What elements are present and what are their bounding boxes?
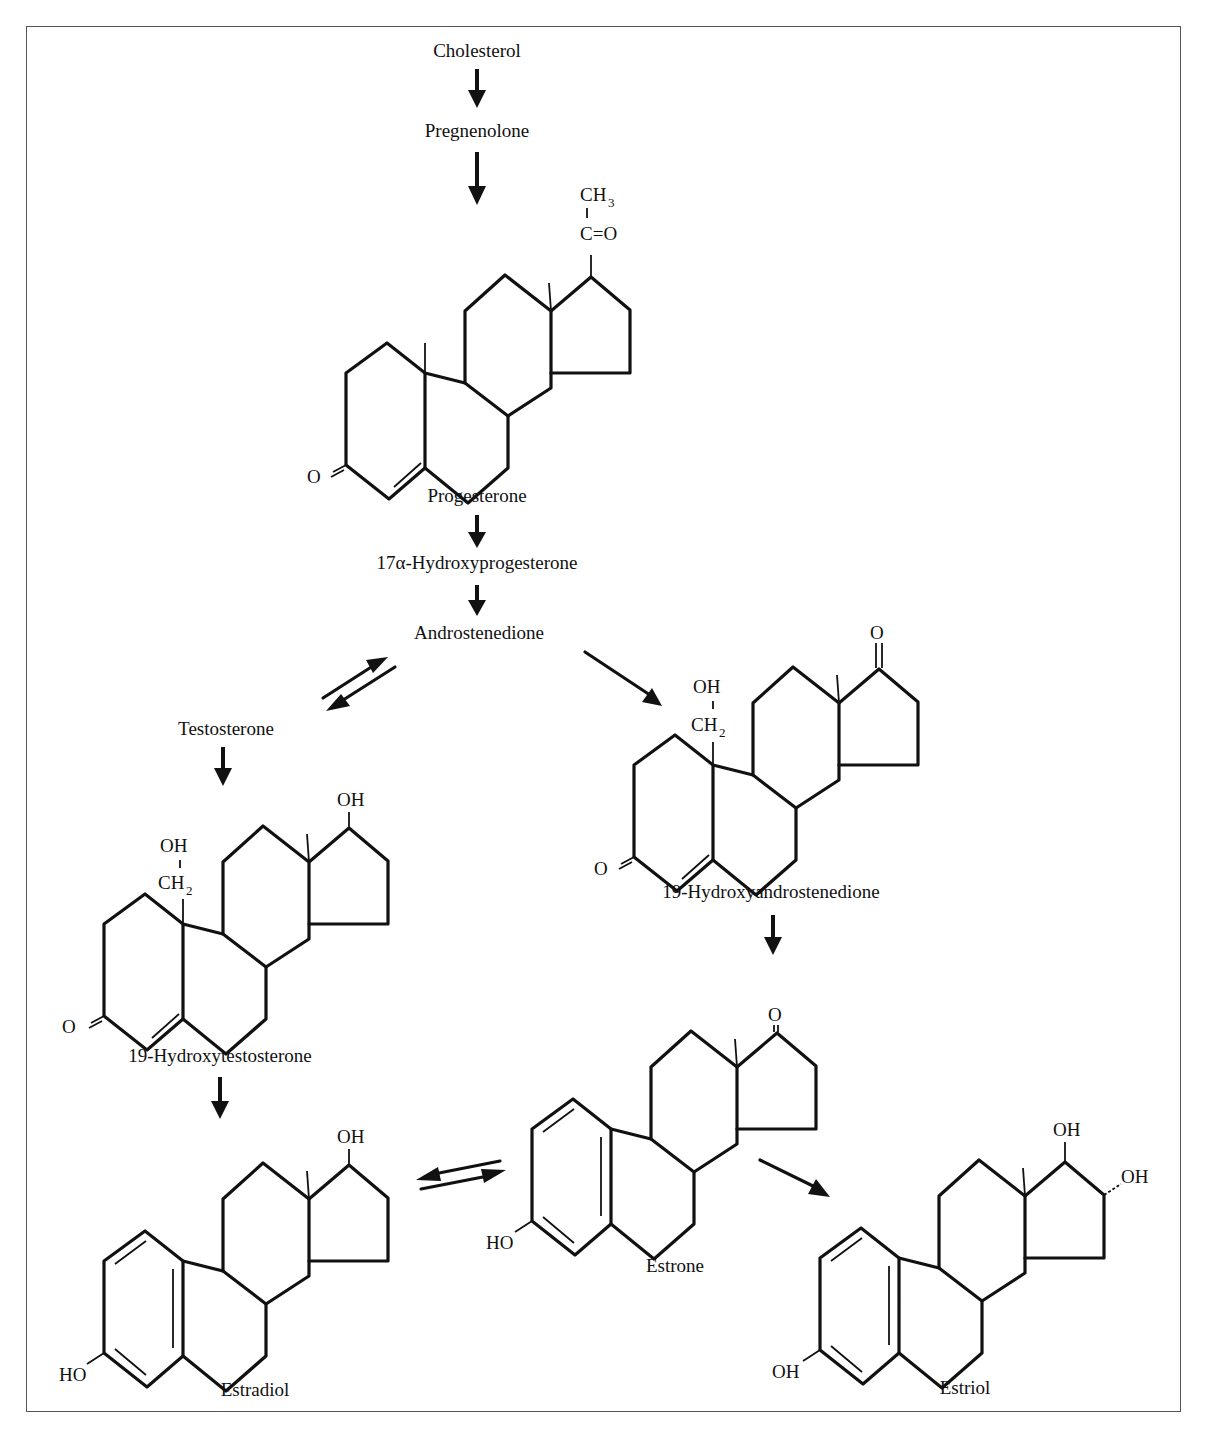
label-17a-hydroxyprogesterone: 17α-Hydroxyprogesterone [377, 552, 578, 573]
arrow-down-icon [468, 585, 486, 616]
label-estradiol: Estradiol [221, 1379, 290, 1400]
label-19-hydroxyandrostenedione: 19-Hydroxyandrostenedione [662, 881, 879, 902]
label-cholesterol: Cholesterol [433, 40, 521, 61]
arrow-down-icon [214, 747, 232, 786]
svg-text:OH: OH [337, 789, 365, 810]
svg-text:C=O: C=O [580, 223, 617, 244]
svg-text:OH: OH [1053, 1119, 1081, 1140]
label-estriol: Estriol [940, 1377, 991, 1398]
svg-text:2: 2 [719, 725, 726, 740]
svg-text:HO: HO [486, 1232, 513, 1253]
svg-text:CH: CH [580, 184, 607, 205]
arrow-down-icon [211, 1077, 229, 1119]
svg-text:O: O [870, 622, 884, 643]
progesterone-structure: C=O CH 3 O [307, 184, 630, 503]
label-testosterone: Testosterone [178, 718, 274, 739]
estrone-structure: O HO [486, 1004, 816, 1259]
reversible-arrow-icon [416, 1161, 506, 1189]
svg-text:CH: CH [158, 872, 185, 893]
label-19-hydroxytestosterone: 19-Hydroxytestosterone [128, 1045, 312, 1066]
arrow-down-icon [468, 515, 486, 548]
estradiol-structure: OH HO [59, 1126, 388, 1391]
svg-text:HO: HO [59, 1364, 86, 1385]
svg-text:OH: OH [772, 1361, 800, 1382]
reversible-arrow-icon [323, 657, 395, 711]
arrow-diagonal-icon [760, 1160, 830, 1197]
estriol-structure: OH OH OH [772, 1119, 1149, 1388]
label-estrone: Estrone [646, 1255, 704, 1276]
svg-text:O: O [768, 1004, 782, 1025]
svg-text:3: 3 [608, 195, 615, 210]
arrow-down-icon [468, 69, 486, 108]
svg-text:OH: OH [160, 835, 188, 856]
arrow-down-icon [764, 915, 782, 955]
svg-text:2: 2 [186, 883, 193, 898]
svg-text:CH: CH [691, 714, 718, 735]
svg-text:O: O [62, 1016, 76, 1037]
label-androstenedione: Androstenedione [414, 622, 544, 643]
arrow-diagonal-icon [585, 652, 662, 706]
label-progesterone: Progesterone [427, 485, 526, 506]
svg-text:OH: OH [1121, 1166, 1149, 1187]
label-pregnenolone: Pregnenolone [425, 120, 529, 141]
svg-text:O: O [307, 466, 321, 487]
arrow-down-icon [468, 152, 486, 205]
svg-text:OH: OH [337, 1126, 365, 1147]
19-hydroxyandrostenedione-structure: OH CH 2 O O [594, 622, 918, 895]
19-hydroxytestosterone-structure: OH CH 2 OH O [62, 789, 388, 1054]
svg-text:OH: OH [693, 676, 721, 697]
svg-text:O: O [594, 858, 608, 879]
pathway-diagram: Cholesterol Pregnenolone C=O CH 3 O Prog… [0, 0, 1205, 1430]
